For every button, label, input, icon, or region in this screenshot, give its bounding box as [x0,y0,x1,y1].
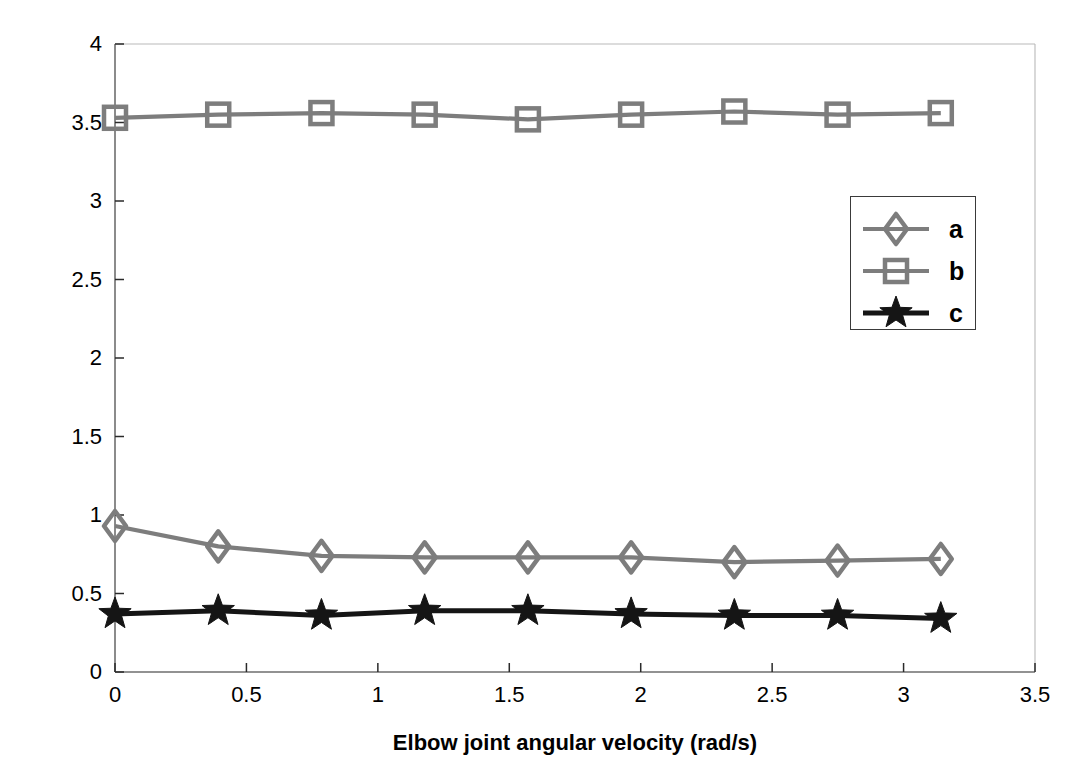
marker-star [305,598,337,629]
plot-area [0,0,1078,782]
legend-item-a[interactable]: a [851,209,975,249]
chart-figure: Values of the parameters a, b, c 00.511.… [0,0,1078,782]
series-b [104,101,952,131]
legend-item-b[interactable]: b [851,251,975,291]
legend-label: a [949,217,963,242]
series-c [99,594,957,633]
marker-star [202,594,234,625]
legend-label: c [949,301,963,326]
legend-marker-diamond-icon [859,209,941,249]
marker-star [925,602,957,633]
series-a [104,511,952,577]
marker-star [615,597,647,628]
legend-marker-square-icon [859,251,941,291]
marker-star [880,296,912,327]
chart-legend: abc [850,196,976,330]
marker-star [409,594,441,625]
series-line-b [115,112,941,120]
marker-star [821,598,853,629]
legend-item-c[interactable]: c [851,293,975,333]
legend-marker-star-icon [859,293,941,333]
marker-star [718,598,750,629]
marker-star [512,594,544,625]
legend-label: b [949,259,964,284]
